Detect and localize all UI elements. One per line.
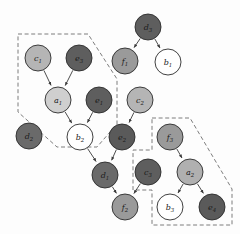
node-d2[interactable]: d2 <box>16 123 42 149</box>
node-subscript-f1: 1 <box>125 61 128 67</box>
node-d3[interactable]: d3 <box>135 14 161 40</box>
node-e1[interactable]: e1 <box>86 87 112 113</box>
node-subscript-a1: 1 <box>59 100 62 106</box>
node-e3[interactable]: e3 <box>66 45 92 71</box>
node-subscript-b2: 2 <box>80 137 85 143</box>
node-subscript-d1: 1 <box>106 175 109 181</box>
edge-e3-to-a1 <box>65 70 73 85</box>
node-e2[interactable]: e2 <box>109 124 135 150</box>
node-f2[interactable]: f2 <box>112 194 138 220</box>
edge-e2-to-d1 <box>112 150 117 161</box>
edge-a2-to-b3 <box>178 184 183 193</box>
edge-b2-to-d1 <box>88 149 97 162</box>
node-e4[interactable]: e4 <box>199 194 225 220</box>
edge-e1-to-b2 <box>87 112 92 122</box>
node-b2[interactable]: b2 <box>67 124 93 150</box>
node-subscript-c2: 2 <box>140 100 145 106</box>
edge-d3-to-f1 <box>134 38 140 47</box>
node-subscript-c3: 3 <box>149 172 153 178</box>
dag-diagram: c1e3a1e1d2b2d3f1b1c2e2f3d1c3a2f2b3e4 <box>0 0 240 234</box>
node-group: c1e3a1e1d2b2d3f1b1c2e2f3d1c3a2f2b3e4 <box>16 14 225 220</box>
edge-a2-to-e4 <box>197 184 203 194</box>
node-c3[interactable]: c3 <box>135 159 161 185</box>
node-subscript-c1: 1 <box>39 58 42 64</box>
edge-a1-to-b2 <box>65 112 72 123</box>
node-subscript-e2: 2 <box>122 137 127 143</box>
edge-d3-to-b1 <box>155 39 160 48</box>
node-subscript-e3: 3 <box>80 58 84 64</box>
node-subscript-e1: 1 <box>100 100 103 106</box>
node-a1[interactable]: a1 <box>45 87 71 113</box>
figure-canvas: c1e3a1e1d2b2d3f1b1c2e2f3d1c3a2f2b3e4 <box>0 0 240 234</box>
node-c1[interactable]: c1 <box>25 45 51 71</box>
edge-c3-to-f2 <box>134 184 141 194</box>
node-d1[interactable]: d1 <box>92 162 118 188</box>
edge-f3-to-a2 <box>177 149 182 158</box>
node-b1[interactable]: b1 <box>155 49 181 75</box>
edge-d1-to-f2 <box>112 187 116 194</box>
node-f3[interactable]: f3 <box>157 124 183 150</box>
node-subscript-d2: 2 <box>29 136 34 142</box>
edge-c1-to-a1 <box>44 70 51 85</box>
node-b3[interactable]: b3 <box>157 194 183 220</box>
node-a2[interactable]: a2 <box>177 159 203 185</box>
node-subscript-d3: 3 <box>149 27 153 33</box>
node-subscript-a2: 2 <box>190 172 195 178</box>
node-c2[interactable]: c2 <box>127 87 153 113</box>
edge-c2-to-e2 <box>129 112 134 122</box>
node-subscript-b3: 3 <box>171 207 175 213</box>
node-f1[interactable]: f1 <box>112 48 138 74</box>
node-subscript-e4: 4 <box>212 207 217 213</box>
node-subscript-f3: 3 <box>170 137 174 143</box>
node-subscript-f2: 2 <box>124 207 129 213</box>
node-subscript-b1: 1 <box>169 62 172 68</box>
